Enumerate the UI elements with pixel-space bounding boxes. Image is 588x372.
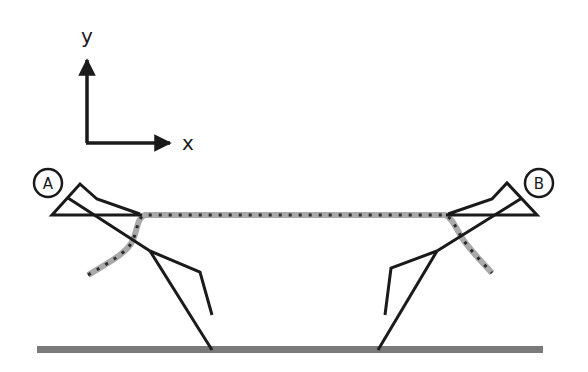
- figure-a-bent-leg: [150, 251, 212, 315]
- figure-b-label: B: [534, 175, 544, 193]
- figure-a-label: A: [43, 175, 54, 193]
- rope: [88, 215, 492, 275]
- figure-b-badge: B: [525, 169, 553, 197]
- x-axis-label: x: [182, 131, 194, 155]
- figure-b-torso: [437, 198, 522, 251]
- figure-b-arm: [446, 183, 537, 215]
- figure-b-bent-leg: [385, 251, 437, 315]
- tug-of-war-diagram: y x A B: [0, 0, 588, 372]
- figure-a-badge: A: [34, 169, 62, 197]
- figure-a-arm: [52, 184, 142, 215]
- figure-a-straight-leg: [150, 251, 212, 350]
- figure-a: [52, 184, 212, 350]
- y-axis-label: y: [81, 24, 93, 48]
- figure-b: [378, 183, 537, 350]
- ground: [37, 346, 543, 353]
- coordinate-axes: y x: [81, 24, 194, 155]
